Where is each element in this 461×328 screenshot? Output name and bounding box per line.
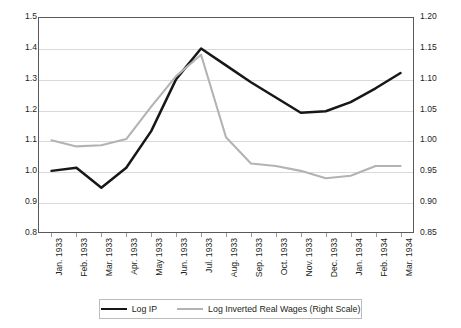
left-axis-tick-label: 1.2 — [25, 105, 37, 114]
x-axis-tick-mark — [301, 233, 302, 237]
x-axis-tick-label: Dec. 1933 — [330, 238, 339, 277]
right-axis-tick-label: 1.00 — [420, 135, 437, 144]
x-axis-tick-label: Nov. 1933 — [305, 238, 314, 277]
left-axis-tick-label: 0.8 — [25, 228, 37, 237]
gray-line-swatch — [177, 308, 203, 310]
x-axis-tick-label: Jun. 1933 — [180, 238, 189, 276]
legend-item-label: Log Inverted Real Wages (Right Scale) — [208, 305, 360, 314]
x-axis-tick-mark — [51, 233, 52, 237]
x-axis-tick-label: Aug. 1933 — [230, 238, 239, 277]
x-axis-tick-mark — [401, 233, 402, 237]
legend-item-log-ip[interactable]: Log IP — [101, 305, 157, 314]
x-axis-tick-mark — [151, 233, 152, 237]
x-axis-tick-mark — [101, 233, 102, 237]
left-axis-tick-label: 1.5 — [25, 12, 37, 21]
x-axis-tick-label: Mar. 1934 — [405, 238, 414, 276]
left-axis-tick-label: 0.9 — [25, 197, 37, 206]
legend-item-log-inverted-real-wages[interactable]: Log Inverted Real Wages (Right Scale) — [177, 305, 360, 314]
series-line — [51, 55, 400, 179]
x-axis-tick-label: Apr. 1933 — [130, 238, 139, 275]
x-axis-tick-label: Jan. 1934 — [355, 238, 364, 276]
series-line — [51, 49, 400, 188]
x-axis-tick-label: Jan. 1933 — [55, 238, 64, 276]
x-axis-tick-mark — [351, 233, 352, 237]
x-axis-tick-mark — [176, 233, 177, 237]
x-axis-tick-mark — [251, 233, 252, 237]
x-axis-tick-label: Feb. 1933 — [80, 238, 89, 277]
x-axis-tick-label: Mar. 1933 — [105, 238, 114, 276]
left-axis-tick-label: 1.3 — [25, 74, 37, 83]
black-line-swatch — [101, 308, 127, 310]
x-axis-tick-label: Jul. 1933 — [205, 238, 214, 273]
plot-area — [38, 17, 414, 233]
right-axis-tick-label: 1.10 — [420, 74, 437, 83]
x-axis-tick-mark — [201, 233, 202, 237]
x-axis-tick-mark — [326, 233, 327, 237]
right-axis-tick-label: 1.15 — [420, 43, 437, 52]
x-axis-tick-mark — [276, 233, 277, 237]
right-axis-tick-label: 0.85 — [420, 228, 437, 237]
line-chart: 1.51.41.31.21.11.00.90.8 1.201.151.101.0… — [0, 0, 461, 328]
left-axis-tick-label: 1.0 — [25, 166, 37, 175]
x-axis-tick-label: Feb. 1934 — [380, 238, 389, 277]
x-axis-tick-mark — [376, 233, 377, 237]
x-axis-tick-label: Sep. 1933 — [255, 238, 264, 277]
right-axis-tick-label: 0.95 — [420, 166, 437, 175]
series-layer — [39, 18, 413, 232]
x-axis-tick-mark — [226, 233, 227, 237]
chart-legend: Log IP Log Inverted Real Wages (Right Sc… — [99, 299, 362, 319]
left-axis-tick-label: 1.1 — [25, 135, 37, 144]
legend-item-label: Log IP — [132, 305, 157, 314]
x-axis-tick-label: Oct. 1933 — [280, 238, 289, 275]
x-axis-tick-mark — [76, 233, 77, 237]
right-axis-tick-label: 0.90 — [420, 197, 437, 206]
right-axis-tick-label: 1.20 — [420, 12, 437, 21]
left-axis-tick-label: 1.4 — [25, 43, 37, 52]
x-axis-tick-mark — [126, 233, 127, 237]
right-axis-tick-label: 1.05 — [420, 105, 437, 114]
x-axis-tick-label: May 1933 — [155, 238, 164, 276]
